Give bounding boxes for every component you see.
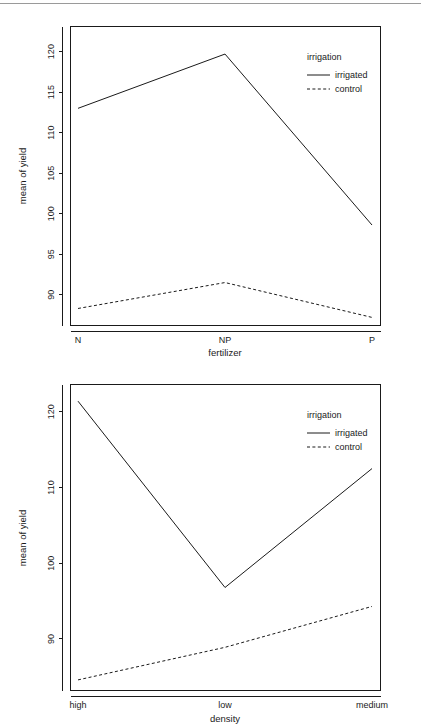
- x-axis-tick-label: P: [369, 335, 375, 345]
- series-line-control: [78, 606, 372, 679]
- y-axis-tick-label: 110: [46, 480, 56, 494]
- x-axis-title: fertilizer: [208, 347, 241, 358]
- legend-title: irrigation: [307, 410, 342, 420]
- series-line-irrigated: [78, 54, 372, 225]
- x-axis-tick-label: low: [218, 700, 232, 710]
- plot-frame: [71, 27, 381, 326]
- legend-label-control: control: [335, 442, 362, 452]
- y-axis-tick-label: 95: [46, 249, 56, 259]
- x-axis-tick-label: N: [75, 335, 82, 345]
- y-axis-tick-label: 110: [46, 125, 56, 139]
- legend: irrigation irrigated control: [307, 410, 368, 452]
- legend-title: irrigation: [307, 52, 342, 62]
- x-axis-tick-label: NP: [219, 335, 232, 345]
- series-group: [78, 401, 372, 680]
- y-axis-ticks: [59, 412, 63, 639]
- y-axis-ticks: [59, 52, 63, 295]
- y-axis-tick-label: 120: [46, 44, 56, 59]
- y-axis-tick-label: 115: [46, 85, 56, 99]
- x-axis-tick-labels: NNPP: [75, 335, 375, 345]
- y-axis-title: mean of yield: [17, 148, 28, 205]
- plot-frame: [71, 385, 381, 691]
- x-axis-tick-labels: highlowmedium: [69, 700, 388, 710]
- series-group: [78, 54, 372, 317]
- y-axis-tick-label: 90: [46, 634, 56, 644]
- y-axis-tick-label: 100: [46, 556, 56, 571]
- x-axis-tick-label: medium: [356, 700, 388, 710]
- legend: irrigation irrigated control: [307, 52, 368, 94]
- legend-label-irrigated: irrigated: [335, 428, 368, 438]
- series-line-irrigated: [78, 401, 372, 587]
- y-axis-tick-label: 90: [46, 290, 56, 300]
- figure-page: 9095100105110115120 mean of yield NNPP f…: [0, 0, 421, 728]
- interaction-plot-fertilizer: 9095100105110115120 mean of yield NNPP f…: [0, 0, 421, 362]
- x-axis-title: density: [210, 713, 240, 724]
- interaction-plot-density: 90100110120 mean of yield highlowmedium …: [0, 362, 421, 728]
- y-axis-tick-label: 100: [46, 206, 56, 221]
- y-axis-tick-labels: 90100110120: [46, 404, 56, 644]
- legend-label-control: control: [335, 84, 362, 94]
- series-line-control: [78, 283, 372, 318]
- y-axis-tick-labels: 9095100105110115120: [46, 44, 56, 300]
- y-axis-tick-label: 120: [46, 404, 56, 419]
- legend-label-irrigated: irrigated: [335, 70, 368, 80]
- y-axis-tick-label: 105: [46, 166, 56, 181]
- x-axis-tick-label: high: [69, 700, 86, 710]
- y-axis-title: mean of yield: [17, 510, 28, 567]
